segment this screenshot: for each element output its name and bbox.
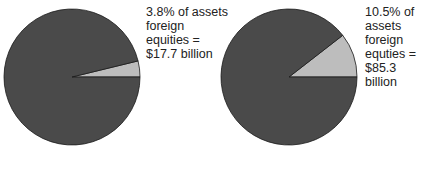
annotation-right: 10.5% of assets foreign equties = $85.3 … (365, 5, 427, 89)
pie-slice-other-assets (221, 9, 357, 145)
pie-slice-other-assets (4, 9, 140, 145)
